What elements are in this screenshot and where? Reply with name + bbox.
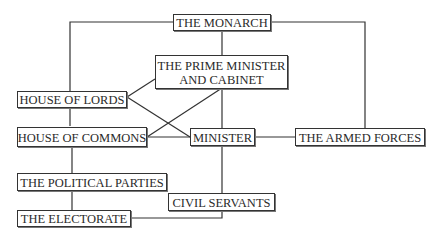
node-pm-label-line1: THE PRIME MINISTER	[158, 59, 286, 73]
edge-lords-pm	[127, 79, 155, 97]
node-political-parties-label: THE POLITICAL PARTIES	[20, 176, 163, 190]
node-monarch-label: THE MONARCH	[176, 16, 267, 30]
node-lords-label: HOUSE OF LORDS	[20, 93, 125, 107]
node-commons-label: HOUSE OF COMMONS	[18, 131, 147, 145]
node-civil-servants: CIVIL SERVANTS	[168, 193, 275, 211]
edge-civil-servants-electorate	[131, 211, 222, 218]
node-armed-forces-label: THE ARMED FORCES	[299, 131, 421, 145]
node-house-of-commons: HOUSE OF COMMONS	[17, 127, 147, 147]
node-house-of-lords: HOUSE OF LORDS	[17, 91, 127, 108]
node-minister-label: MINISTER	[193, 131, 252, 145]
node-pm-label-line2: AND CABINET	[179, 73, 263, 87]
government-structure-diagram: THE MONARCH THE PRIME MINISTER AND CABIN…	[0, 0, 442, 237]
node-armed-forces: THE ARMED FORCES	[295, 128, 425, 146]
node-monarch: THE MONARCH	[173, 14, 271, 31]
node-electorate: THE ELECTORATE	[17, 210, 131, 227]
node-minister: MINISTER	[190, 128, 255, 146]
node-electorate-label: THE ELECTORATE	[21, 212, 127, 226]
node-political-parties: THE POLITICAL PARTIES	[17, 173, 167, 191]
node-prime-minister-and-cabinet: THE PRIME MINISTER AND CABINET	[155, 55, 288, 89]
node-civil-servants-label: CIVIL SERVANTS	[173, 196, 271, 210]
